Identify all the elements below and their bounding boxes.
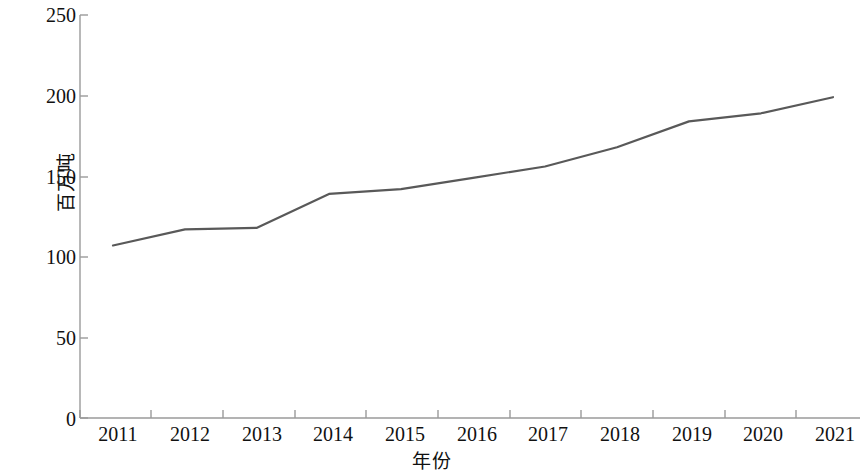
data-line-series-0: [113, 97, 833, 245]
plot-area: [0, 0, 864, 475]
x-axis-ticks: [80, 410, 796, 418]
axis-spines: [80, 15, 860, 418]
line-chart: 百万吨 250 200 150 100 50 0 2011 2012 2013 …: [0, 0, 864, 475]
y-axis-ticks: [80, 15, 88, 418]
